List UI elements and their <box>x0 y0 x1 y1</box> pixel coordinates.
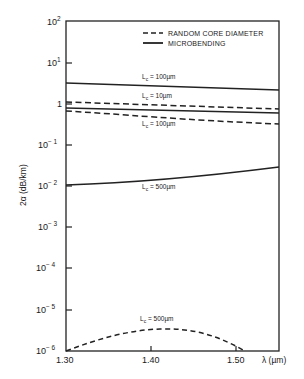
curve-rcd-500um <box>66 329 243 351</box>
legend-dashed-label: RANDOM CORE DIAMETER <box>168 30 263 37</box>
y-axis-title: 2α (dB/km) <box>18 164 28 206</box>
y-tick-1e-3: 10− 3 <box>38 220 58 232</box>
y-tick-1e-6: 10− 6 <box>36 344 56 356</box>
y-tick-1e-4: 10− 4 <box>36 261 56 273</box>
legend: RANDOM CORE DIAMETER MICROBENDING <box>143 30 263 47</box>
x-axis-title: λ (µm) <box>262 355 286 365</box>
label-rcd-500um: Lc = 500µm <box>140 315 174 324</box>
label-mb-500um: Lc = 500µm <box>142 183 176 192</box>
y-tick-1e2: 102 <box>47 15 61 27</box>
x-ticks <box>151 346 236 351</box>
y-tick-1e1: 101 <box>47 56 61 68</box>
legend-solid-label: MICROBENDING <box>168 40 226 47</box>
x-tick-1.50: 1.50 <box>227 355 245 365</box>
y-tick-1: 1 <box>57 99 62 109</box>
y-tick-1e-1: 10− 1 <box>38 138 58 150</box>
y-tick-1e-5: 10− 5 <box>36 303 56 315</box>
y-ticks <box>66 63 72 310</box>
y-tick-1e-2: 10− 2 <box>38 179 58 191</box>
x-tick-labels: 1.30 1.40 1.50 λ (µm) <box>56 355 286 365</box>
label-rcd-10um: Lc = 10µm <box>142 92 172 101</box>
label-mb-100um: Lc = 100µm <box>142 73 176 82</box>
chart: 102 101 1 10− 1 10− 2 10− 3 10− 4 10− 5 … <box>0 0 304 379</box>
x-tick-1.40: 1.40 <box>142 355 160 365</box>
curve-microbending-10um <box>66 108 279 113</box>
x-tick-1.30: 1.30 <box>56 355 74 365</box>
curve-microbending-100um <box>66 83 279 90</box>
label-rcd-100um: Lc = 100µm <box>142 120 176 129</box>
y-tick-labels: 102 101 1 10− 1 10− 2 10− 3 10− 4 10− 5 … <box>36 15 62 356</box>
